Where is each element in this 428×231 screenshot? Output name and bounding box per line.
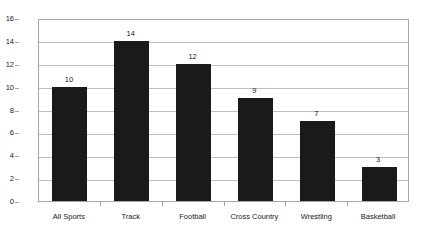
bar[interactable] [362, 167, 397, 201]
x-axis-tick-label: Track [122, 213, 140, 221]
gridline [39, 180, 408, 181]
bar-chart: 0246810121416 All SportsTrackFootballCro… [0, 0, 428, 231]
y-axis-tick-label: 2 [10, 175, 14, 183]
y-axis-tick-mark [15, 88, 19, 89]
y-axis-tick-mark [15, 133, 19, 134]
bar-value-label: 14 [101, 30, 160, 38]
y-axis-tick-label: 14 [6, 38, 14, 46]
gridline [39, 42, 408, 43]
y-axis-tick-label: 6 [10, 130, 14, 138]
y-axis-tick-mark [15, 179, 19, 180]
bar-value-label: 7 [287, 110, 346, 118]
x-axis-tick-mark [224, 202, 225, 206]
x-axis: All SportsTrackFootballCross CountryWres… [0, 202, 428, 231]
y-axis-tick-label: 12 [6, 61, 14, 69]
y-axis-tick-label: 8 [10, 107, 14, 115]
y-axis-tick-label: 4 [10, 153, 14, 161]
gridline [39, 65, 408, 66]
bar[interactable] [238, 98, 273, 201]
y-axis-tick-mark [15, 65, 19, 66]
bar-value-label: 10 [39, 76, 98, 84]
bar[interactable] [114, 41, 149, 201]
bar[interactable] [300, 121, 335, 201]
x-axis-tick-label: Football [179, 213, 206, 221]
bar-value-label: 9 [225, 87, 284, 95]
gridline [39, 134, 408, 135]
gridline [39, 88, 408, 89]
y-axis-tick-mark [15, 111, 19, 112]
gridline [39, 111, 408, 112]
y-axis: 0246810121416 [0, 0, 38, 231]
x-axis-tick-mark [347, 202, 348, 206]
bar-value-label: 3 [349, 156, 408, 164]
y-axis-tick-mark [15, 19, 19, 20]
y-axis-tick-mark [15, 42, 19, 43]
x-axis-tick-label: Wrestling [301, 213, 332, 221]
y-axis-tick-label: 16 [6, 15, 14, 23]
x-axis-tick-mark [100, 202, 101, 206]
bar[interactable] [52, 87, 87, 201]
plot-area [38, 19, 409, 202]
x-axis-tick-label: Cross Country [230, 213, 278, 221]
y-axis-tick-label: 10 [6, 84, 14, 92]
x-axis-tick-mark [162, 202, 163, 206]
y-axis-tick-mark [15, 156, 19, 157]
x-axis-tick-label: All Sports [53, 213, 85, 221]
x-axis-tick-mark [285, 202, 286, 206]
bar[interactable] [176, 64, 211, 201]
x-axis-tick-label: Basketball [361, 213, 396, 221]
bar-value-label: 12 [163, 53, 222, 61]
